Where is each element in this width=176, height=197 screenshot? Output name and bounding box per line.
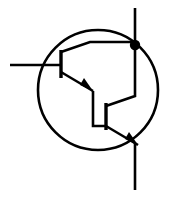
q1-emitter-arrowhead-icon [80, 78, 93, 91]
q1-emitter-to-q2-base-wire [93, 91, 106, 126]
collector-junction-dot [130, 40, 140, 50]
transistor-q2 [106, 45, 138, 145]
q1-collector-branch [61, 42, 135, 52]
darlington-transistor-symbol [0, 0, 176, 197]
transistor-q1 [61, 42, 135, 91]
q2-collector-branch [106, 45, 135, 106]
transistor-envelope-circle [38, 30, 158, 150]
schematic-canvas [0, 0, 176, 197]
